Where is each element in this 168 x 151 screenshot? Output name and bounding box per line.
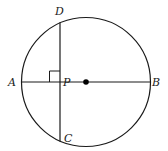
label-p: P <box>62 76 71 89</box>
label-b: B <box>151 76 160 89</box>
geometry-diagram: D A P B C <box>0 0 168 151</box>
center-point <box>83 79 89 85</box>
right-angle-marker <box>50 71 61 82</box>
label-d: D <box>54 5 64 18</box>
label-c: C <box>64 132 73 145</box>
label-a: A <box>7 76 16 89</box>
